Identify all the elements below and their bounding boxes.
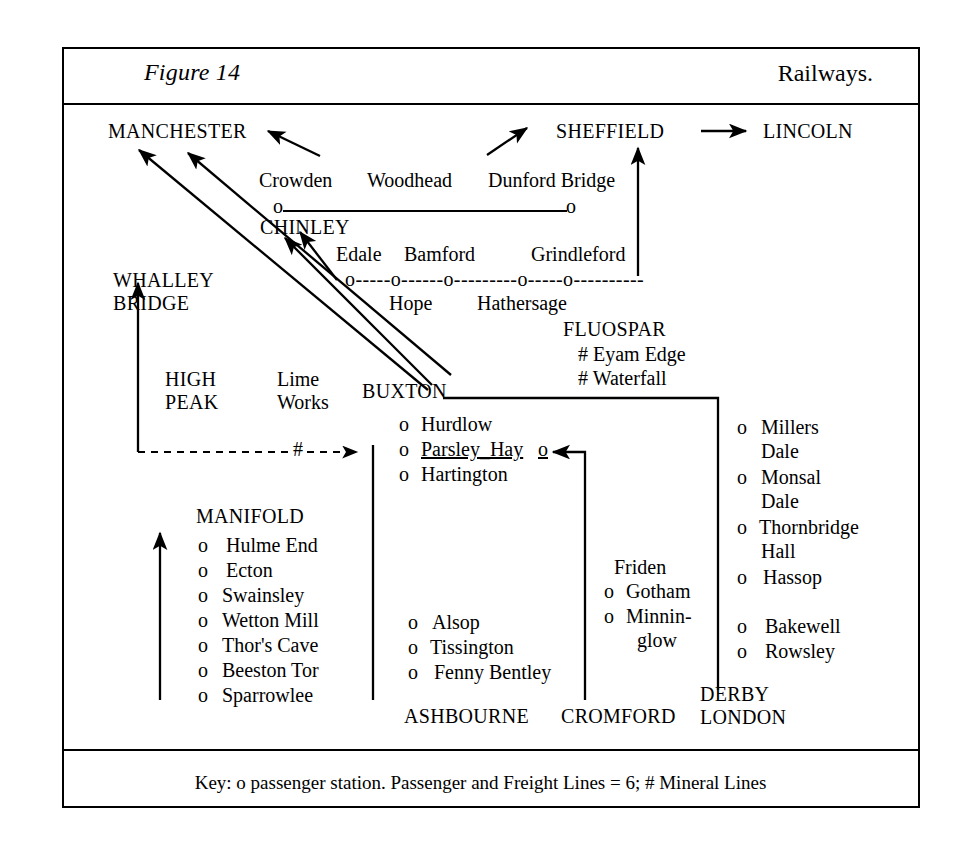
terminal-cromford: CROMFORD — [561, 705, 676, 727]
terminal-london: LONDON — [700, 706, 786, 728]
station-thornbridge-hall-line2: Hall — [761, 540, 795, 562]
station-ecton: Ecton — [226, 559, 273, 581]
station-grindleford: Grindleford — [531, 243, 625, 265]
station-hulme-end: Hulme End — [226, 534, 318, 556]
marker-ecton: o — [198, 559, 208, 581]
marker-swainsley: o — [198, 584, 208, 606]
marker-wetton-mill: o — [198, 609, 208, 631]
label-manifold-title: MANIFOLD — [196, 505, 304, 527]
line-cromford-to-parsley-hay — [553, 452, 585, 700]
marker-thors-cave: o — [198, 634, 208, 656]
terminal-lincoln: LINCOLN — [763, 120, 853, 142]
marker-hurdlow: o — [399, 413, 409, 435]
marker-hartington: o — [399, 463, 409, 485]
station-minninglow-line1: Minnin- — [626, 605, 692, 627]
hope-valley-track-markers: o-----o------o---------o-----o---------- — [345, 268, 644, 290]
mineral-line-marker: # — [291, 438, 305, 460]
marker-minninglow: o — [604, 605, 614, 627]
marker-millers-dale: o — [737, 416, 747, 438]
marker-hulme-end: o — [198, 534, 208, 556]
station-monsal-dale-line1: Monsal — [761, 466, 821, 488]
station-crowden: Crowden — [259, 169, 332, 191]
marker-woodhead-west: o — [273, 195, 283, 217]
marker-gotham: o — [604, 580, 614, 602]
label-fluospar-title: FLUOSPAR — [563, 318, 666, 340]
station-swainsley: Swainsley — [222, 584, 304, 606]
marker-parsley-hay: o — [399, 438, 409, 460]
station-edale: Edale — [336, 243, 382, 265]
mineral-waterfall: # Waterfall — [578, 367, 667, 389]
station-rowsley: Rowsley — [765, 640, 835, 662]
terminal-whalley-bridge-line1: WHALLEY — [113, 269, 214, 291]
marker-woodhead-east: o — [566, 195, 576, 217]
terminal-chinley: CHINLEY — [260, 216, 350, 238]
terminal-manchester: MANCHESTER — [108, 120, 247, 142]
station-bamford: Bamford — [404, 243, 475, 265]
station-hope: Hope — [389, 292, 432, 314]
marker-rowsley: o — [737, 640, 747, 662]
station-parsley-hay: Parsley_Hay — [421, 438, 523, 460]
terminal-derby: DERBY — [700, 683, 769, 705]
station-fenny-bentley: Fenny Bentley — [434, 661, 551, 683]
station-hartington: Hartington — [421, 463, 508, 485]
station-tissington: Tissington — [430, 636, 514, 658]
marker-monsal-dale: o — [737, 466, 747, 488]
mineral-eyam-edge: # Eyam Edge — [578, 343, 686, 365]
station-millers-dale-line2: Dale — [761, 440, 799, 462]
marker-beeston-tor: o — [198, 659, 208, 681]
marker-parsley-hay-east: o — [538, 438, 548, 460]
terminal-sheffield: SHEFFIELD — [556, 120, 664, 142]
station-thornbridge-hall-line1: Thornbridge — [759, 516, 859, 538]
marker-bakewell: o — [737, 615, 747, 637]
station-hathersage: Hathersage — [477, 292, 567, 314]
station-monsal-dale-line2: Dale — [761, 490, 799, 512]
station-dunford-bridge: Dunford Bridge — [488, 169, 615, 191]
label-high-peak-line2: PEAK — [165, 391, 218, 413]
marker-fenny-bentley: o — [408, 661, 418, 683]
marker-alsop: o — [408, 611, 418, 633]
terminal-buxton: BUXTON — [362, 380, 447, 402]
diagram-key: Key: o passenger station. Passenger and … — [0, 772, 961, 794]
figure-page: Figure 14 Railways. — [0, 0, 961, 863]
station-millers-dale-line1: Millers — [761, 416, 819, 438]
station-woodhead: Woodhead — [367, 169, 452, 191]
station-beeston-tor: Beeston Tor — [222, 659, 319, 681]
terminal-ashbourne: ASHBOURNE — [404, 705, 529, 727]
label-lime-works-line1: Lime — [277, 368, 319, 390]
marker-hassop: o — [737, 566, 747, 588]
marker-tissington: o — [408, 636, 418, 658]
station-bakewell: Bakewell — [765, 615, 841, 637]
station-alsop: Alsop — [432, 611, 480, 633]
label-friden: Friden — [614, 556, 666, 578]
station-wetton-mill: Wetton Mill — [222, 609, 319, 631]
marker-sparrowlee: o — [198, 684, 208, 706]
station-gotham: Gotham — [626, 580, 690, 602]
station-hurdlow: Hurdlow — [421, 413, 492, 435]
marker-thornbridge-hall: o — [737, 516, 747, 538]
line-dunford-to-sheffield — [487, 128, 527, 155]
label-high-peak-line1: HIGH — [165, 368, 216, 390]
line-woodhead-to-manchester — [268, 131, 320, 156]
station-thors-cave: Thor's Cave — [222, 634, 318, 656]
station-minninglow-line2: glow — [637, 629, 677, 651]
station-hassop: Hassop — [763, 566, 822, 588]
label-lime-works-line2: Works — [277, 391, 329, 413]
terminal-whalley-bridge-line2: BRIDGE — [113, 292, 189, 314]
station-sparrowlee: Sparrowlee — [222, 684, 313, 706]
